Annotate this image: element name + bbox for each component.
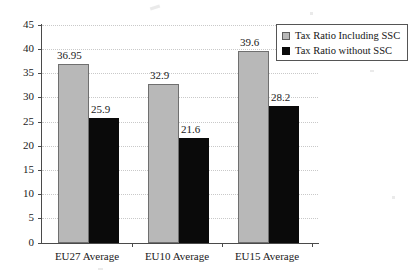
y-tick-label-25-wrap: 25 <box>0 116 34 127</box>
data-label-eu15-without-ssc: 28.2 <box>271 92 290 103</box>
x-tick-3 <box>312 243 313 247</box>
y-tick-label-15: 15 <box>23 164 34 175</box>
y-tick-label-0-wrap: 0 <box>0 237 34 248</box>
legend-label-including-ssc: Tax Ratio Including SSC <box>295 30 400 41</box>
legend-swatch-gray-icon <box>282 32 290 40</box>
bar-eu27-without-ssc <box>89 118 119 243</box>
y-tick-15 <box>38 170 42 171</box>
data-label-eu27-including-ssc: 36.95 <box>57 50 82 61</box>
y-tick-label-45: 45 <box>23 19 34 30</box>
data-label-eu27-without-ssc: 25.9 <box>91 104 110 115</box>
category-label-eu15: EU15 Average <box>222 250 312 262</box>
y-axis-line <box>41 24 42 244</box>
y-tick-label-35-wrap: 35 <box>0 67 34 78</box>
legend-swatch-black-icon <box>282 47 290 55</box>
y-tick-40 <box>38 49 42 50</box>
y-tick-label-10: 10 <box>23 188 34 199</box>
y-tick-label-0: 0 <box>29 237 35 248</box>
y-tick-label-15-wrap: 15 <box>0 164 34 175</box>
y-tick-label-25: 25 <box>23 116 34 127</box>
data-label-eu10-without-ssc: 21.6 <box>181 124 200 135</box>
category-label-eu27: EU27 Average <box>42 250 132 262</box>
y-tick-0 <box>38 243 42 244</box>
y-tick-label-10-wrap: 10 <box>0 188 34 199</box>
bar-eu10-including-ssc <box>148 84 179 243</box>
scan-speckle <box>392 196 395 199</box>
scan-speckle <box>370 70 374 72</box>
bar-eu27-including-ssc <box>58 64 89 243</box>
y-tick-20 <box>38 146 42 147</box>
category-label-eu10: EU10 Average <box>132 250 222 262</box>
y-tick-label-5-wrap: 5 <box>0 212 34 223</box>
y-tick-label-45-wrap: 45 <box>0 19 34 30</box>
bar-eu15-including-ssc <box>238 51 269 243</box>
x-axis-line <box>41 243 319 244</box>
scan-speckle <box>310 12 313 15</box>
data-label-eu15-including-ssc: 39.6 <box>240 37 259 48</box>
bar-chart: 45 40 35 30 25 20 15 10 5 0 36.95 25.9 3… <box>0 0 416 279</box>
y-tick-label-35: 35 <box>23 67 34 78</box>
x-tick-2 <box>222 243 223 247</box>
legend-item-without-ssc: Tax Ratio without SSC <box>282 43 403 58</box>
x-tick-1 <box>132 243 133 247</box>
legend-label-without-ssc: Tax Ratio without SSC <box>295 45 392 56</box>
y-tick-label-5: 5 <box>29 212 35 223</box>
y-tick-5 <box>38 218 42 219</box>
y-tick-25 <box>38 122 42 123</box>
data-label-eu10-including-ssc: 32.9 <box>150 70 169 81</box>
scan-speckle <box>98 268 103 270</box>
y-tick-35 <box>38 73 42 74</box>
legend-item-including-ssc: Tax Ratio Including SSC <box>282 28 403 43</box>
y-tick-45 <box>38 25 42 26</box>
y-tick-label-20: 20 <box>23 140 34 151</box>
y-tick-label-40-wrap: 40 <box>0 43 34 54</box>
scan-speckle <box>150 5 160 11</box>
y-tick-label-20-wrap: 20 <box>0 140 34 151</box>
y-tick-label-30-wrap: 30 <box>0 91 34 102</box>
y-tick-10 <box>38 194 42 195</box>
bar-eu10-without-ssc <box>179 138 209 243</box>
y-tick-30 <box>38 97 42 98</box>
y-tick-label-40: 40 <box>23 43 34 54</box>
y-tick-label-30: 30 <box>23 91 34 102</box>
bar-eu15-without-ssc <box>269 106 299 243</box>
chart-legend: Tax Ratio Including SSC Tax Ratio withou… <box>276 24 408 61</box>
